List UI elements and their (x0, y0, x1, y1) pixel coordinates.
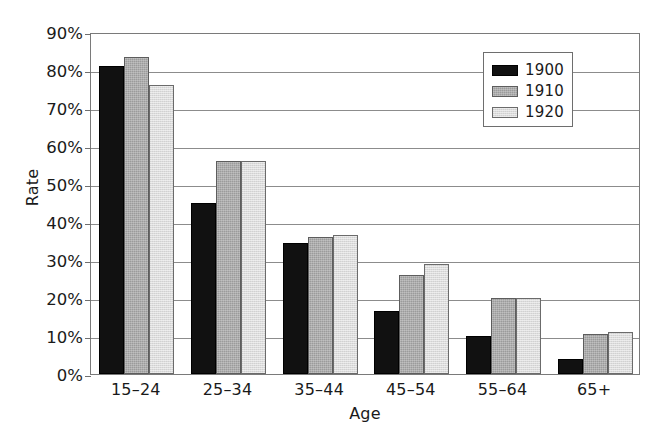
legend-item: 1910 (492, 81, 572, 101)
bar (399, 275, 424, 374)
legend-label: 1900 (525, 63, 564, 78)
y-tick-label: 40% (5, 216, 83, 233)
x-tick-label: 55–64 (457, 380, 549, 399)
legend-item: 1900 (492, 60, 572, 80)
bar (191, 203, 216, 374)
bar (374, 311, 399, 374)
x-tick-label: 65+ (548, 380, 640, 399)
x-axis-title: Age (90, 404, 640, 423)
y-tick-label: 70% (5, 102, 83, 119)
bar (424, 264, 449, 374)
y-tick-mark (85, 376, 91, 377)
y-tick-label: 60% (5, 140, 83, 157)
bar (558, 359, 583, 374)
x-tick-label: 25–34 (182, 380, 274, 399)
bar (124, 57, 149, 374)
legend-swatch (492, 65, 518, 76)
y-tick-label: 50% (5, 178, 83, 195)
y-tick-label: 20% (5, 292, 83, 309)
bar-group (183, 34, 275, 374)
legend-swatch (492, 107, 518, 118)
y-tick-label: 10% (5, 330, 83, 347)
bar (283, 243, 308, 374)
y-tick-label: 30% (5, 254, 83, 271)
bar (308, 237, 333, 374)
bar (216, 161, 241, 374)
bar-chart: Rate 0%10%20%30%40%50%60%70%80%90% 15–24… (0, 0, 666, 442)
bar-group (274, 34, 366, 374)
x-tick-label: 35–44 (273, 380, 365, 399)
bar (583, 334, 608, 374)
bar (241, 161, 266, 374)
bar-group (91, 34, 183, 374)
x-tick-label: 15–24 (90, 380, 182, 399)
bar (608, 332, 633, 374)
y-tick-label: 80% (5, 64, 83, 81)
bar-group (366, 34, 458, 374)
bar (491, 298, 516, 374)
legend-label: 1920 (525, 105, 564, 120)
legend-item: 1920 (492, 102, 572, 122)
y-tick-label: 0% (5, 368, 83, 385)
legend-label: 1910 (525, 84, 564, 99)
bar (333, 235, 358, 374)
x-tick-label: 45–54 (365, 380, 457, 399)
bar (99, 66, 124, 374)
y-tick-label: 90% (5, 26, 83, 43)
bar (149, 85, 174, 374)
legend-swatch (492, 86, 518, 97)
bar (516, 298, 541, 374)
bar (466, 336, 491, 374)
legend: 190019101920 (483, 52, 573, 127)
